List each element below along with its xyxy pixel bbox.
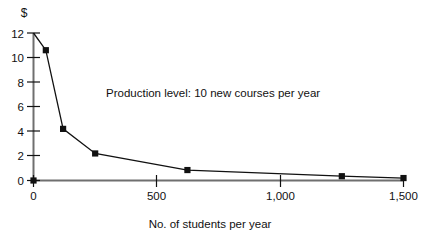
x-tick-label-1000: 1,000 [266, 190, 295, 202]
data-point-marker [92, 150, 98, 156]
production-level-annotation: Production level: 10 new courses per yea… [106, 87, 320, 99]
y-tick-label-2: 2 [18, 150, 24, 162]
y-tick-label-4: 4 [18, 126, 25, 138]
x-axis-title: No. of students per year [149, 218, 272, 230]
x-tick-label-0: 0 [30, 190, 36, 202]
series-markers [30, 47, 406, 183]
y-tick-label-0: 0 [18, 175, 24, 187]
y-tick-label-12: 12 [11, 28, 24, 40]
data-point-marker [43, 47, 49, 53]
data-point-marker [60, 126, 66, 132]
line-chart: 12 10 8 6 4 2 0 $ 0 500 1,000 1,500 No. … [0, 0, 425, 245]
origin-marker [30, 177, 36, 183]
series-line-cost-per-student [34, 33, 404, 178]
y-tick-label-10: 10 [11, 52, 24, 64]
data-point-marker [339, 173, 345, 179]
y-tick-label-8: 8 [18, 77, 24, 89]
y-tick-label-6: 6 [18, 101, 24, 113]
data-point-marker [184, 167, 190, 173]
data-point-marker [400, 175, 406, 181]
x-tick-label-1500: 1,500 [389, 190, 418, 202]
y-axis-unit-label: $ [21, 6, 28, 20]
x-tick-label-500: 500 [147, 190, 166, 202]
chart-container: 12 10 8 6 4 2 0 $ 0 500 1,000 1,500 No. … [0, 0, 425, 245]
